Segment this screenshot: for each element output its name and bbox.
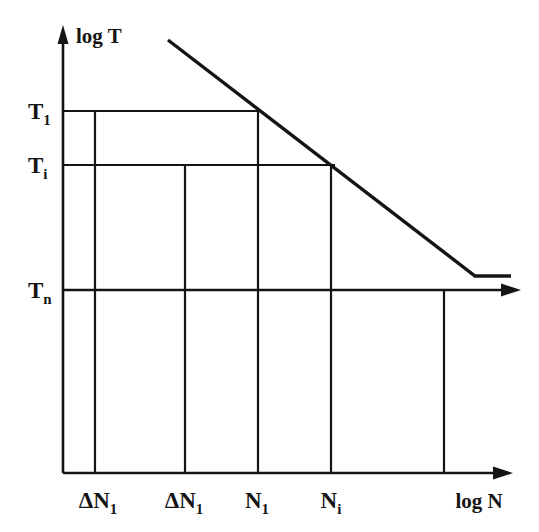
- x-tick-base-dN1-second: ΔN: [165, 488, 196, 513]
- tn-axis: [63, 284, 521, 297]
- x-tick-base-dN1-first: ΔN: [79, 488, 110, 513]
- x-tick-labels: ΔN1 ΔN1 N1 Ni: [79, 488, 342, 517]
- x-tick-sub-dN1-first: 1: [110, 501, 118, 517]
- y-axis: [58, 25, 69, 473]
- x-tick-base-N1: N: [245, 488, 262, 513]
- y-tick-label-Tn: Tn: [28, 278, 52, 307]
- y-tick-base-Tn: T: [28, 278, 43, 303]
- x-tick-label-dN1-first: ΔN1: [79, 488, 118, 517]
- chart-canvas: log T T1 Ti Tn ΔN1 ΔN1 N1: [0, 0, 539, 532]
- x-tick-base-Ni: N: [321, 488, 338, 513]
- y-axis-title: log T: [76, 24, 122, 48]
- x-tick-sub-dN1-second: 1: [196, 501, 204, 517]
- x-tick-sub-N1: 1: [262, 501, 270, 517]
- y-axis-arrowhead-icon: [58, 25, 69, 44]
- x-axis-title: log N: [455, 489, 502, 513]
- x-tick-label-Ni: Ni: [321, 488, 342, 517]
- chart-figure: log T T1 Ti Tn ΔN1 ΔN1 N1: [0, 0, 539, 532]
- x-tick-sub-Ni: i: [337, 501, 341, 517]
- y-tick-base-Ti: T: [28, 153, 43, 178]
- y-tick-base-T1: T: [28, 99, 43, 124]
- series-decay-curve: [168, 40, 511, 276]
- tn-axis-arrowhead-icon: [501, 284, 521, 297]
- y-tick-sub-Tn: n: [43, 291, 52, 307]
- x-axis: [63, 467, 513, 480]
- x-tick-label-dN1-second: ΔN1: [165, 488, 204, 517]
- y-tick-labels: T1 Ti Tn: [28, 99, 52, 307]
- x-tick-label-N1: N1: [245, 488, 269, 517]
- y-tick-sub-T1: 1: [43, 112, 51, 128]
- x-axis-arrowhead-icon: [493, 467, 513, 480]
- y-tick-sub-Ti: i: [43, 166, 47, 182]
- y-tick-label-T1: T1: [28, 99, 51, 128]
- y-tick-label-Ti: Ti: [28, 153, 48, 182]
